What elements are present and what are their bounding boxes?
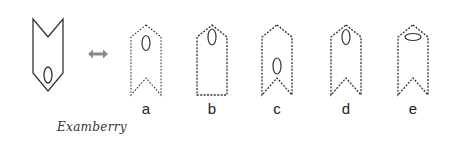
- option-d-outline: [331, 25, 361, 95]
- option-e-figure[interactable]: [398, 25, 428, 95]
- question-figure-oval: [44, 67, 52, 83]
- option-d-figure[interactable]: [331, 25, 361, 95]
- option-c-oval: [273, 58, 281, 74]
- option-b-outline: [197, 25, 227, 95]
- question-figure-outline: [33, 19, 63, 91]
- option-c-label[interactable]: c: [267, 101, 287, 117]
- option-b-label[interactable]: b: [202, 101, 222, 117]
- watermark: Examberry: [57, 120, 127, 134]
- option-c-outline: [262, 25, 292, 95]
- option-a-figure[interactable]: [131, 25, 161, 95]
- option-a-oval: [142, 36, 150, 51]
- option-a-label[interactable]: a: [136, 101, 156, 117]
- option-e-outline: [398, 25, 428, 95]
- option-e-oval: [405, 34, 421, 41]
- option-e-label[interactable]: e: [403, 101, 423, 117]
- option-d-oval: [342, 30, 350, 45]
- option-d-label[interactable]: d: [336, 101, 356, 117]
- double-arrow-icon: [88, 50, 108, 59]
- question-figure: [33, 19, 63, 91]
- option-b-oval: [208, 29, 216, 45]
- option-c-figure[interactable]: [262, 25, 292, 95]
- option-b-figure[interactable]: [197, 25, 227, 95]
